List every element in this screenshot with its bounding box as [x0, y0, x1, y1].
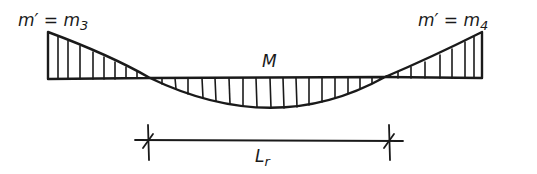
left-moment-label: m′ = m3	[18, 10, 88, 33]
span-sagging-region	[150, 77, 385, 108]
span-moment-label: M	[262, 51, 277, 71]
right-hogging-region	[385, 32, 482, 78]
left-hogging-region	[48, 32, 150, 79]
moment-diagram: m′ = m3 m′ = m4 M Lr	[0, 0, 537, 174]
left-dimension-tick	[148, 125, 149, 160]
right-moment-label: m′ = m4	[418, 10, 488, 33]
span-length-label: Lr	[255, 146, 271, 169]
right-dimension-tick	[389, 125, 390, 160]
